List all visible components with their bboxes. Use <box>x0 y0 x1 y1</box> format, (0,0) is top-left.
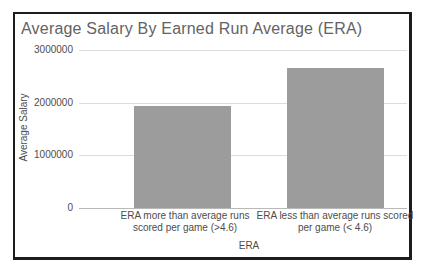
y-axis-title: Average Salary <box>18 68 29 188</box>
plot-area <box>79 50 407 208</box>
x-axis-title: ERA <box>219 240 279 251</box>
y-tick-2000000: 2000000 <box>15 97 73 109</box>
y-tick-0: 0 <box>15 202 73 214</box>
category-label-era-more-than-avg: ERA more than average runs scored per ga… <box>115 210 255 234</box>
chart-title: Average Salary By Earned Run Average (ER… <box>21 20 362 38</box>
chart-frame: Average Salary By Earned Run Average (ER… <box>13 12 412 260</box>
category-label-era-less-than-avg: ERA less than average runs scored per ga… <box>250 210 420 234</box>
bar-era-more-than-avg <box>134 106 231 208</box>
bar-era-less-than-avg <box>287 68 384 208</box>
y-tick-1000000: 1000000 <box>15 149 73 161</box>
y-tick-3000000: 3000000 <box>15 44 73 56</box>
x-axis-line <box>79 208 407 209</box>
gridline-3000000 <box>79 50 407 51</box>
